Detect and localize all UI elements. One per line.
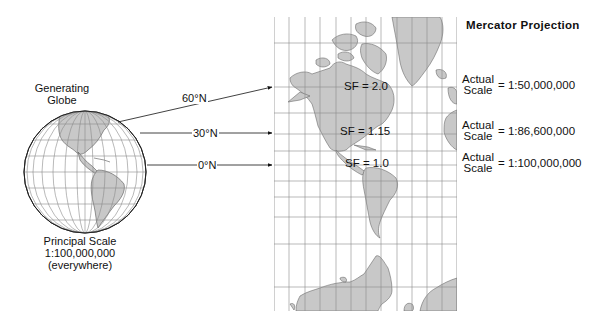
scale-factor-0n: SF = 1.0	[343, 157, 391, 169]
actual-scale-word: Actual Scale	[462, 152, 494, 174]
scale-word: Scale	[464, 131, 493, 142]
actual-scale-0n: Actual Scale = 1:100,000,000	[462, 152, 581, 174]
principal-scale-note: (everywhere)	[20, 259, 140, 271]
globe-label-line2: Globe	[22, 94, 102, 106]
actual-scale-value: = 1:50,000,000	[498, 79, 575, 91]
latitude-label-60n: 60°N	[181, 92, 208, 104]
latitude-label-0n: 0°N	[197, 159, 217, 171]
actual-scale-30n: Actual Scale = 1:86,600,000	[462, 120, 575, 142]
scale-factor-60n: SF = 2.0	[342, 80, 390, 92]
actual-scale-value: = 1:100,000,000	[498, 157, 581, 169]
scale-word: Scale	[464, 85, 493, 96]
actual-scale-word: Actual Scale	[462, 120, 494, 142]
generating-globe	[20, 110, 150, 233]
principal-scale-value: 1:100,000,000	[20, 247, 140, 259]
latitude-label-30n: 30°N	[192, 127, 219, 139]
principal-scale-label: Principal Scale	[20, 235, 140, 247]
globe-label: Generating Globe	[22, 82, 102, 106]
actual-scale-60n: Actual Scale = 1:50,000,000	[462, 74, 575, 96]
globe-label-line1: Generating	[22, 82, 102, 94]
scale-factor-30n: SF = 1.15	[338, 125, 392, 137]
principal-scale: Principal Scale 1:100,000,000 (everywher…	[20, 235, 140, 271]
actual-scale-value: = 1:86,600,000	[498, 125, 575, 137]
projection-title: Mercator Projection	[466, 19, 580, 31]
scale-word: Scale	[464, 163, 493, 174]
actual-scale-word: Actual Scale	[462, 74, 494, 96]
